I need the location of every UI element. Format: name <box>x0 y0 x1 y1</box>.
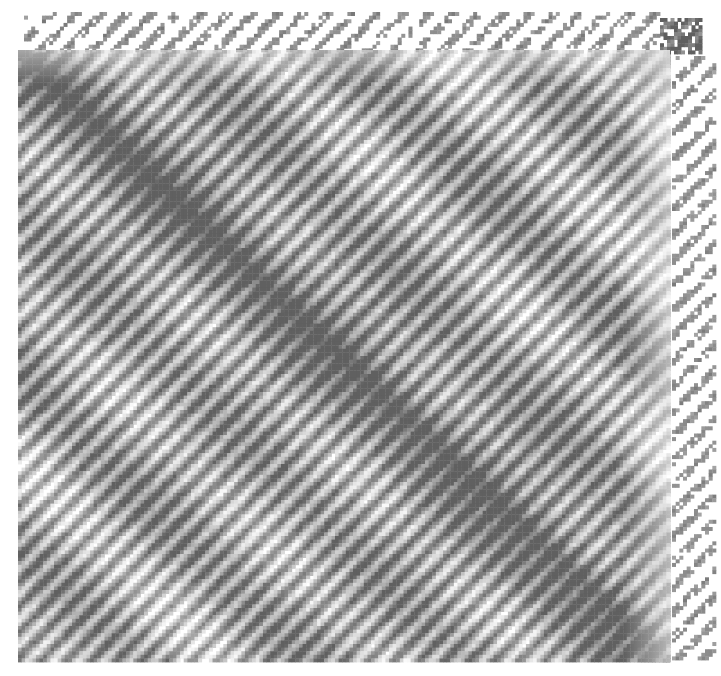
matrix-heatmap-canvas <box>0 0 721 676</box>
figure-root: Cophenetic correlation matrix ordered by… <box>0 0 721 676</box>
